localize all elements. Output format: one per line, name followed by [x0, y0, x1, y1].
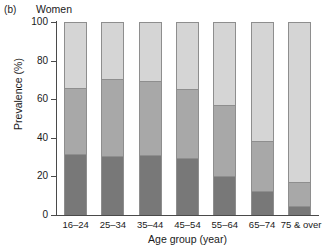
- bar-segment-dark: [65, 155, 86, 215]
- x-tick-label: 35–44: [132, 219, 169, 230]
- stacked-bar[interactable]: [101, 22, 124, 215]
- bar-segment-mid: [289, 182, 310, 207]
- y-tick-mark: [51, 61, 56, 62]
- bar-segment-light: [289, 23, 310, 182]
- x-axis-line: [56, 215, 319, 216]
- y-tick-mark: [51, 22, 56, 23]
- x-tick-label: 45–54: [169, 219, 206, 230]
- stacked-bar[interactable]: [139, 22, 162, 215]
- stacked-bar[interactable]: [176, 22, 199, 215]
- bar-segment-mid: [252, 141, 273, 192]
- y-tick-mark: [51, 176, 56, 177]
- y-tick-mark: [51, 138, 56, 139]
- y-axis-title: Prevalence (%): [12, 29, 24, 159]
- bar-segment-light: [140, 23, 161, 81]
- bar-segment-mid: [102, 79, 123, 157]
- bar-segment-mid: [177, 89, 198, 159]
- bar-segment-dark: [177, 159, 198, 215]
- x-axis-title: Age group (year): [57, 233, 318, 245]
- bar-segment-light: [102, 23, 123, 79]
- plot-area: [57, 22, 318, 215]
- bar-segment-mid: [65, 88, 86, 156]
- bar-segment-dark: [214, 177, 235, 215]
- bar-segment-dark: [252, 192, 273, 215]
- stacked-bar[interactable]: [288, 22, 311, 215]
- bar-segment-light: [252, 23, 273, 141]
- bar-segment-dark: [102, 157, 123, 215]
- y-tick-mark: [51, 99, 56, 100]
- x-tick-label: 55–64: [206, 219, 243, 230]
- bar-segment-light: [177, 23, 198, 89]
- panel-letter: (b): [4, 4, 17, 16]
- stacked-bar[interactable]: [213, 22, 236, 215]
- x-tick-label: 16–24: [57, 219, 94, 230]
- bar-segment-mid: [140, 81, 161, 156]
- stacked-bar[interactable]: [64, 22, 87, 215]
- x-tick-label: 75 & over: [281, 219, 318, 230]
- y-tick-label: 20: [6, 171, 48, 181]
- chart-figure: (b) Women 020406080100 Prevalence (%) 16…: [0, 0, 331, 251]
- x-tick-label: 65–74: [243, 219, 280, 230]
- stacked-bar[interactable]: [251, 22, 274, 215]
- bar-segment-light: [214, 23, 235, 105]
- bar-segment-dark: [140, 156, 161, 215]
- panel-title: Women: [36, 3, 72, 15]
- y-tick-mark: [51, 215, 56, 216]
- y-tick-label: 100: [6, 17, 48, 27]
- bar-segment-mid: [214, 105, 235, 177]
- bar-segment-dark: [289, 207, 310, 215]
- x-tick-label: 25–34: [94, 219, 131, 230]
- bar-segment-light: [65, 23, 86, 88]
- y-tick-label: 0: [6, 210, 48, 220]
